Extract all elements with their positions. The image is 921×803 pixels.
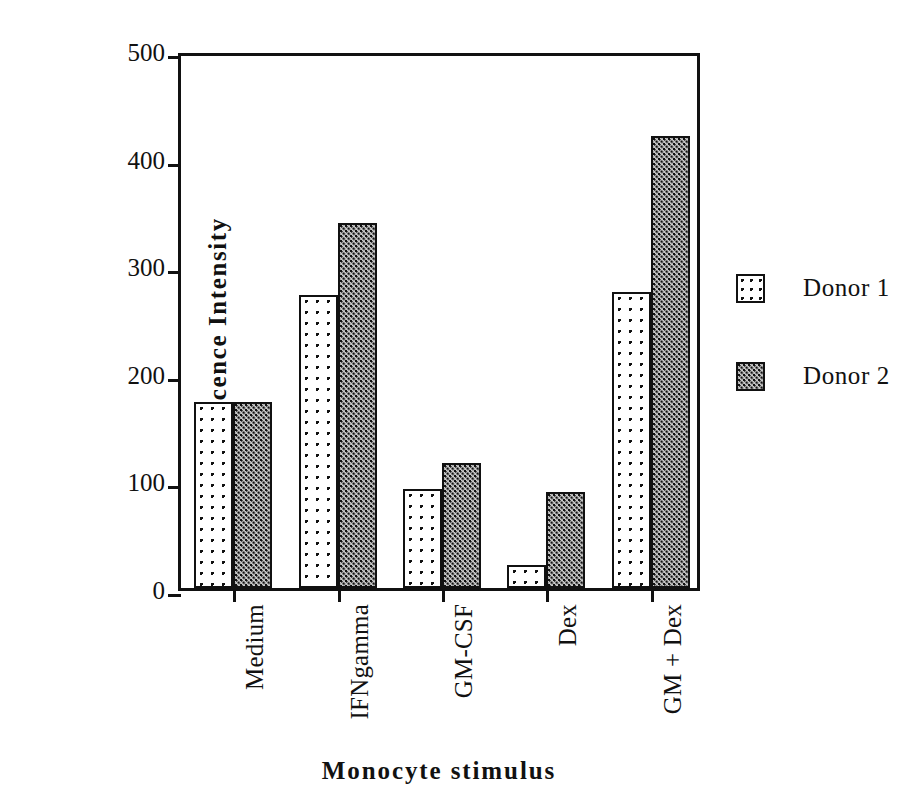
legend-swatch-icon <box>736 362 765 391</box>
bar-dex-donor-2 <box>546 492 585 588</box>
bar-gm-dex-donor-2 <box>651 136 690 588</box>
y-axis-tick-label: 100 <box>128 470 166 495</box>
x-axis-category-label: GM-CSF <box>451 604 476 698</box>
y-axis-tick <box>168 271 181 274</box>
bar-medium-donor-1 <box>194 402 233 588</box>
x-axis-category-label: GM + Dex <box>660 604 685 714</box>
legend-item-label: Donor 1 <box>803 274 890 302</box>
x-axis-tick <box>651 588 654 602</box>
y-axis-tick-label: 0 <box>153 578 166 603</box>
x-axis-category-label: Medium <box>242 604 267 690</box>
x-axis-tick <box>442 588 445 602</box>
bar-gm-csf-donor-1 <box>403 489 442 588</box>
y-axis-tick <box>168 594 181 597</box>
x-axis-title: Monocyte stimulus <box>178 757 700 785</box>
legend-item-donor-2[interactable]: Donor 2 <box>736 354 916 398</box>
x-axis-tick <box>233 588 236 602</box>
legend-item-donor-1[interactable]: Donor 1 <box>736 266 916 310</box>
bar-ifngamma-donor-2 <box>338 223 377 588</box>
y-axis-tick <box>168 56 181 59</box>
x-axis-tick <box>546 588 549 602</box>
y-axis-tick <box>168 164 181 167</box>
legend-item-label: Donor 2 <box>803 362 890 390</box>
bar-gm-dex-donor-1 <box>612 292 651 588</box>
figure: 0100200300400500 Mean Fluorescence Inten… <box>0 0 921 803</box>
y-axis-tick-label: 500 <box>128 40 166 65</box>
y-axis-tick-label: 400 <box>128 148 166 173</box>
y-axis-tick <box>168 486 181 489</box>
x-axis-tick <box>338 588 341 602</box>
y-axis-tick <box>168 379 181 382</box>
y-axis-tick-label: 200 <box>128 363 166 388</box>
legend-swatch-icon <box>736 274 765 303</box>
plot-area: Mean Fluorescence Intensity <box>178 53 700 591</box>
bar-ifngamma-donor-1 <box>299 295 338 588</box>
x-axis-category-label: Dex <box>555 604 580 646</box>
x-axis-category-label: IFNgamma <box>347 604 372 719</box>
y-axis-tick-labels: 0100200300400500 <box>60 53 165 591</box>
bar-dex-donor-1 <box>507 565 546 588</box>
y-axis-tick-label: 300 <box>128 255 166 280</box>
bar-gm-csf-donor-2 <box>442 463 481 588</box>
legend: Donor 1Donor 2 <box>736 266 916 442</box>
bar-medium-donor-2 <box>233 402 272 588</box>
